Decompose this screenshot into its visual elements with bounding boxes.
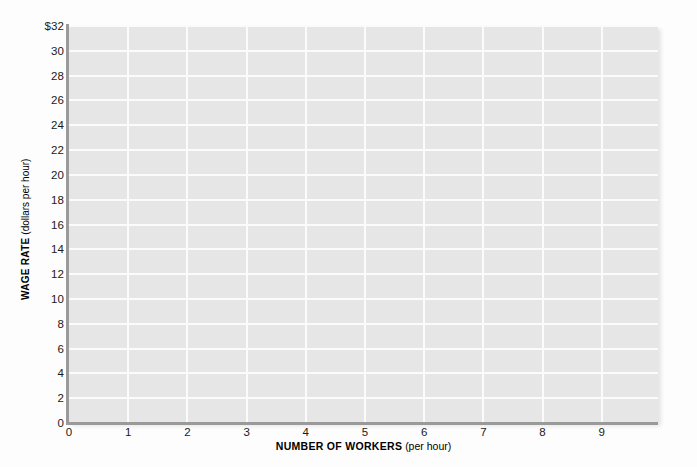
plot-area[interactable] [69, 26, 658, 423]
x-axis-tick-label: 2 [172, 427, 202, 439]
y-axis-tick-label: 20 [0, 170, 64, 182]
y-axis-tick-label: 12 [0, 269, 64, 281]
y-axis-tick-label: 26 [0, 95, 64, 107]
x-axis-tick-label: 1 [113, 427, 143, 439]
y-axis-title: WAGE RATE (dollars per hour) [18, 284, 198, 300]
y-axis-tick-label: 4 [0, 368, 64, 380]
gridline-vertical [364, 26, 366, 423]
x-axis-title-units: (per hour) [405, 440, 451, 452]
gridline-vertical [542, 26, 544, 423]
y-axis-title-bold: WAGE RATE [20, 237, 31, 300]
gridline-vertical [482, 26, 484, 423]
x-axis-title-bold: NUMBER OF WORKERS [276, 440, 402, 452]
gridline-vertical [246, 26, 248, 423]
y-axis-tick-label: 2 [0, 393, 64, 405]
gridline-vertical [601, 26, 603, 423]
y-axis-tick-label: 22 [0, 145, 64, 157]
x-axis-tick-label: 0 [54, 427, 84, 439]
gridline-vertical [305, 26, 307, 423]
x-axis-tick-label: 7 [468, 427, 498, 439]
y-axis-tick-label: 14 [0, 244, 64, 256]
x-axis-tick-label: 9 [587, 427, 617, 439]
y-axis-tick-label: 8 [0, 319, 64, 331]
chart-figure: $32302826242220181614121086420 WAGE RATE… [0, 0, 697, 467]
y-axis-tick-labels: $32302826242220181614121086420 [0, 0, 64, 467]
y-axis-line [66, 24, 69, 425]
y-axis-tick-label: 24 [0, 120, 64, 132]
x-axis-tick-label: 4 [291, 427, 321, 439]
y-axis-tick-label: 18 [0, 195, 64, 207]
y-axis-tick-label: 28 [0, 71, 64, 83]
x-axis-tick-label: 8 [528, 427, 558, 439]
gridline-vertical [186, 26, 188, 423]
y-axis-title-units: (dollars per hour) [20, 159, 31, 235]
x-axis-title: NUMBER OF WORKERS (per hour) [69, 441, 658, 452]
y-axis-tick-label: $32 [0, 21, 64, 33]
gridline-vertical [423, 26, 425, 423]
gridlines [69, 26, 658, 423]
x-axis-tick-label: 6 [409, 427, 439, 439]
y-axis-tick-label: 30 [0, 46, 64, 58]
x-axis-line [66, 422, 658, 425]
gridline-vertical [127, 26, 129, 423]
y-axis-tick-label: 6 [0, 344, 64, 356]
x-axis-tick-label: 5 [350, 427, 380, 439]
x-axis-tick-label: 3 [232, 427, 262, 439]
y-axis-tick-label: 16 [0, 220, 64, 232]
